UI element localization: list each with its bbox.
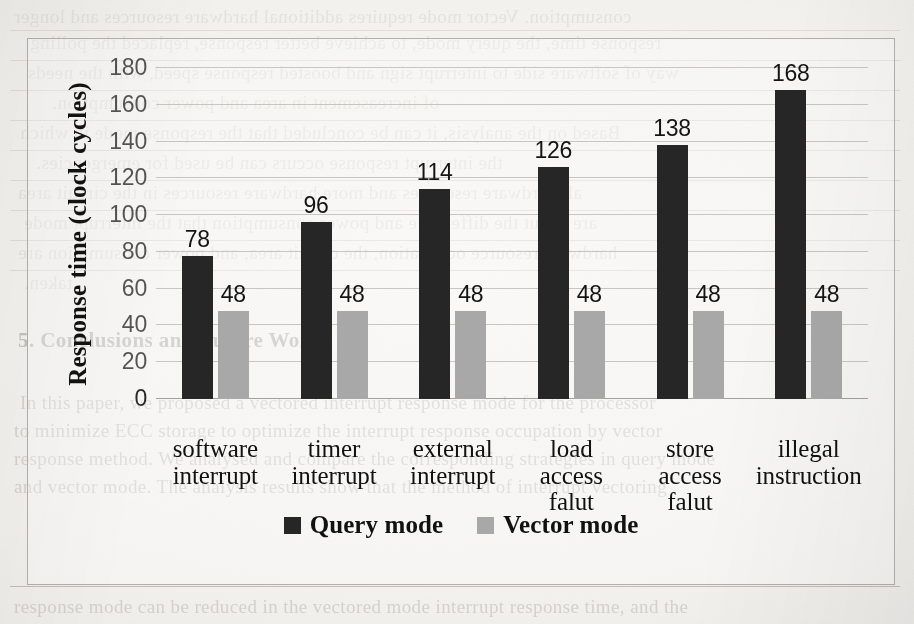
bar-group: 13848 bbox=[657, 68, 724, 399]
plot-inner: 180160140120100806040200 784896481144812… bbox=[156, 68, 868, 399]
category-label-line: interrupt bbox=[270, 463, 398, 490]
bar-query-mode[interactable]: 168 bbox=[775, 90, 806, 399]
y-axis-tick-label: 140 bbox=[109, 127, 147, 154]
bar-query-mode[interactable]: 138 bbox=[657, 145, 688, 399]
chart-legend: Query modeVector mode bbox=[28, 511, 894, 539]
category-label-line: timer bbox=[270, 436, 398, 463]
category-label-line: external bbox=[389, 436, 517, 463]
bar-group: 9648 bbox=[301, 68, 368, 399]
bar-query-mode[interactable]: 126 bbox=[538, 167, 569, 399]
y-axis-tick-label: 0 bbox=[134, 385, 147, 412]
bar-value-label: 48 bbox=[814, 281, 839, 308]
y-axis-tick-label: 60 bbox=[122, 274, 147, 301]
y-axis-tick-label: 120 bbox=[109, 164, 147, 191]
category-label-line: interrupt bbox=[151, 463, 279, 490]
bar-vector-mode[interactable]: 48 bbox=[455, 311, 486, 399]
bar-value-label: 48 bbox=[458, 281, 483, 308]
gridline: 100 bbox=[156, 214, 868, 215]
x-axis-category-label: illegalinstruction bbox=[745, 436, 873, 489]
bar-value-label: 48 bbox=[577, 281, 602, 308]
bar-value-label: 48 bbox=[696, 281, 721, 308]
bar-value-label: 96 bbox=[304, 192, 329, 219]
legend-label: Query mode bbox=[310, 511, 444, 539]
gridline: 60 bbox=[156, 288, 868, 289]
bar-vector-mode[interactable]: 48 bbox=[218, 311, 249, 399]
legend-swatch-icon bbox=[284, 517, 301, 534]
y-axis-title-text: Response time (clock cycles) bbox=[64, 82, 92, 385]
bar-value-label: 168 bbox=[772, 60, 809, 87]
gridline: 180 bbox=[156, 67, 868, 68]
y-axis-title: Response time (clock cycles) bbox=[61, 68, 95, 399]
bar-vector-mode[interactable]: 48 bbox=[337, 311, 368, 399]
category-label-line: load bbox=[507, 436, 635, 463]
y-axis-tick-label: 80 bbox=[122, 237, 147, 264]
bar-query-mode[interactable]: 96 bbox=[301, 222, 332, 399]
gridline: 40 bbox=[156, 324, 868, 325]
bar-vector-mode[interactable]: 48 bbox=[574, 311, 605, 399]
bar-group: 7848 bbox=[182, 68, 249, 399]
legend-label: Vector mode bbox=[503, 511, 638, 539]
y-axis-tick-label: 40 bbox=[122, 311, 147, 338]
gridline: 120 bbox=[156, 177, 868, 178]
y-axis-tick-label: 100 bbox=[109, 201, 147, 228]
x-axis-category-label: externalinterrupt bbox=[389, 436, 517, 489]
x-axis-category-label: loadaccessfalut bbox=[507, 436, 635, 516]
bar-value-label: 138 bbox=[653, 115, 690, 142]
gridline: 20 bbox=[156, 361, 868, 362]
category-label-line: instruction bbox=[745, 463, 873, 490]
bar-value-label: 48 bbox=[221, 281, 246, 308]
category-label-line: access bbox=[626, 463, 754, 490]
x-axis-category-label: storeaccessfalut bbox=[626, 436, 754, 516]
bar-value-label: 78 bbox=[185, 226, 210, 253]
bar-value-label: 114 bbox=[417, 159, 453, 186]
y-axis-tick-label: 160 bbox=[109, 90, 147, 117]
bar-vector-mode[interactable]: 48 bbox=[811, 311, 842, 399]
y-axis-tick-label: 180 bbox=[109, 54, 147, 81]
legend-item-query-mode[interactable]: Query mode bbox=[284, 511, 444, 539]
category-label-line: store bbox=[626, 436, 754, 463]
bar-query-mode[interactable]: 78 bbox=[182, 256, 213, 399]
x-axis-category-label: timerinterrupt bbox=[270, 436, 398, 489]
category-label-line: illegal bbox=[745, 436, 873, 463]
gridline: 0 bbox=[156, 398, 868, 399]
bar-group: 11448 bbox=[419, 68, 486, 399]
chart-figure: Response time (clock cycles) 18016014012… bbox=[27, 38, 895, 585]
gridline: 80 bbox=[156, 251, 868, 252]
category-label-line: software bbox=[151, 436, 279, 463]
bar-group: 12648 bbox=[538, 68, 605, 399]
y-axis-tick-label: 20 bbox=[122, 348, 147, 375]
category-label-line: access bbox=[507, 463, 635, 490]
plot-area: 180160140120100806040200 784896481144812… bbox=[156, 68, 896, 399]
legend-swatch-icon bbox=[477, 517, 494, 534]
bar-vector-mode[interactable]: 48 bbox=[693, 311, 724, 399]
x-axis-category-label: softwareinterrupt bbox=[151, 436, 279, 489]
gridline: 140 bbox=[156, 141, 868, 142]
bar-group: 16848 bbox=[775, 68, 842, 399]
bar-query-mode[interactable]: 114 bbox=[419, 189, 450, 399]
legend-item-vector-mode[interactable]: Vector mode bbox=[477, 511, 638, 539]
gridline: 160 bbox=[156, 104, 868, 105]
category-label-line: interrupt bbox=[389, 463, 517, 490]
bar-value-label: 48 bbox=[340, 281, 365, 308]
bar-value-label: 126 bbox=[535, 137, 572, 164]
